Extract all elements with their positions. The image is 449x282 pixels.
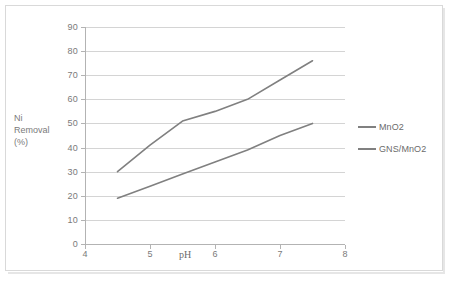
gridline-horizontal xyxy=(85,172,345,173)
y-axis-title-line-3: (%) xyxy=(14,136,60,148)
y-axis-tick xyxy=(81,220,85,221)
y-axis-tick xyxy=(81,148,85,149)
plot-area xyxy=(85,27,345,244)
gridline-horizontal xyxy=(85,220,345,221)
y-axis-tick-label: 80 xyxy=(50,47,78,56)
y-axis-tick-label: 70 xyxy=(50,71,78,80)
y-axis-tick xyxy=(81,172,85,173)
gridline-horizontal xyxy=(85,75,345,76)
y-axis-title-line-2: Removal xyxy=(14,124,60,136)
gridline-horizontal xyxy=(85,99,345,100)
x-axis-tick-label: 6 xyxy=(203,250,227,259)
legend-line-swatch xyxy=(358,126,376,128)
y-axis-tick xyxy=(81,196,85,197)
y-axis-tick-label: 60 xyxy=(50,95,78,104)
legend-line-swatch xyxy=(358,148,376,150)
y-axis-tick xyxy=(81,99,85,100)
gridline-horizontal xyxy=(85,196,345,197)
legend-item[interactable]: MnO2 xyxy=(358,116,446,138)
x-axis-tick-label: 8 xyxy=(333,250,357,259)
x-axis-title: pH xyxy=(170,249,200,260)
y-axis-line xyxy=(85,27,86,245)
y-axis-tick xyxy=(81,75,85,76)
gridline-horizontal xyxy=(85,123,345,124)
legend-label: GNS/MnO2 xyxy=(379,144,426,154)
gridline-horizontal xyxy=(85,148,345,149)
y-axis-tick-label: 0 xyxy=(50,240,78,249)
gridline-horizontal xyxy=(85,51,345,52)
y-axis-tick xyxy=(81,51,85,52)
legend-label: MnO2 xyxy=(379,122,404,132)
legend-item[interactable]: GNS/MnO2 xyxy=(358,138,446,160)
y-axis-tick xyxy=(81,123,85,124)
y-axis-tick xyxy=(81,27,85,28)
x-axis-tick-label: 7 xyxy=(268,250,292,259)
y-axis-tick-label: 30 xyxy=(50,168,78,177)
chart-legend: MnO2GNS/MnO2 xyxy=(358,116,446,160)
gridline-horizontal xyxy=(85,27,345,28)
x-axis-tick-label: 5 xyxy=(138,250,162,259)
y-axis-tick-label: 90 xyxy=(50,23,78,32)
y-axis-title-line-1: Ni xyxy=(14,112,60,124)
y-axis-title: Ni Removal (%) xyxy=(14,112,60,148)
y-axis-tick-label: 20 xyxy=(50,192,78,201)
chart-container: 0102030405060708090 Ni Removal (%) pH Mn… xyxy=(0,0,449,282)
x-axis-tick-label: 4 xyxy=(73,250,97,259)
y-axis-tick-label: 10 xyxy=(50,216,78,225)
